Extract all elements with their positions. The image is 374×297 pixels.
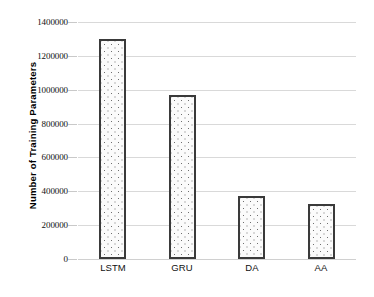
y-axis-tick: [68, 225, 77, 226]
plot-area: [78, 22, 356, 259]
gridline: [78, 22, 356, 23]
y-axis-tick: [68, 90, 77, 91]
x-axis-label-da: DA: [245, 262, 258, 273]
y-axis-tick: [68, 157, 77, 158]
x-axis-tick-labels: LSTMGRUDAAA: [78, 262, 356, 284]
y-axis-tick: [68, 56, 77, 57]
bar-chart: Number of Training Parameters 0200000400…: [0, 0, 374, 297]
y-axis-tick-label: 600000: [42, 152, 68, 162]
y-axis-tick-label: 800000: [42, 119, 68, 129]
bar-lstm: [99, 39, 126, 259]
y-axis-tick-label: 200000: [42, 220, 68, 230]
bar-aa: [308, 204, 335, 259]
y-axis-tick-label: 1400000: [37, 17, 68, 27]
y-axis-tick: [68, 22, 77, 23]
y-axis-tick: [68, 259, 77, 260]
y-axis-tick-label: 400000: [42, 186, 68, 196]
x-axis-label-aa: AA: [315, 262, 328, 273]
y-axis-tick-label: 1200000: [37, 51, 68, 61]
gridline: [78, 259, 356, 260]
y-axis-tick: [68, 191, 77, 192]
x-axis-label-lstm: LSTM: [100, 262, 126, 273]
y-axis-tick-label: 1000000: [37, 85, 68, 95]
x-axis-label-gru: GRU: [171, 262, 192, 273]
y-axis-tick: [68, 124, 77, 125]
bar-da: [238, 196, 265, 259]
y-axis-tick-labels: 0200000400000600000800000100000012000001…: [0, 22, 68, 259]
bar-gru: [169, 95, 196, 259]
